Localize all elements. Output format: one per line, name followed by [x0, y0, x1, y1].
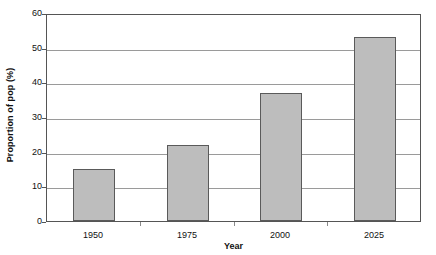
y-axis-tick-mark — [42, 153, 46, 154]
bar — [73, 169, 115, 221]
y-axis-tick-mark — [42, 14, 46, 15]
y-axis-tick-labels: 0102030405060 — [0, 0, 42, 255]
plot-area — [46, 14, 421, 222]
y-axis-tick-label: 40 — [4, 78, 42, 87]
y-axis-tick-mark — [42, 187, 46, 188]
bar — [354, 37, 396, 221]
bar-chart-figure: Proportion of pop (%) 0102030405060 Year… — [0, 0, 436, 255]
y-axis-tick-label: 0 — [4, 217, 42, 226]
y-axis-tick-label: 60 — [4, 9, 42, 18]
y-axis-tick-label: 20 — [4, 148, 42, 157]
x-axis-tick-mark — [327, 222, 328, 226]
y-axis-tick-mark — [42, 118, 46, 119]
x-axis-title: Year — [46, 241, 421, 251]
y-axis-tick-label: 50 — [4, 44, 42, 53]
y-axis-tick-mark — [42, 83, 46, 84]
y-axis-tick-mark — [42, 49, 46, 50]
x-axis-tick-label: 2000 — [250, 230, 310, 240]
y-axis-tick-label: 10 — [4, 182, 42, 191]
x-axis-tick-mark — [234, 222, 235, 226]
x-axis-tick-mark — [140, 222, 141, 226]
x-axis-tick-label: 1975 — [157, 230, 217, 240]
x-axis-tick-label: 2025 — [344, 230, 404, 240]
bar — [167, 145, 209, 221]
x-axis-tick-label: 1950 — [63, 230, 123, 240]
y-axis-tick-label: 30 — [4, 113, 42, 122]
bar — [260, 93, 302, 221]
y-axis-tick-mark — [42, 222, 46, 223]
